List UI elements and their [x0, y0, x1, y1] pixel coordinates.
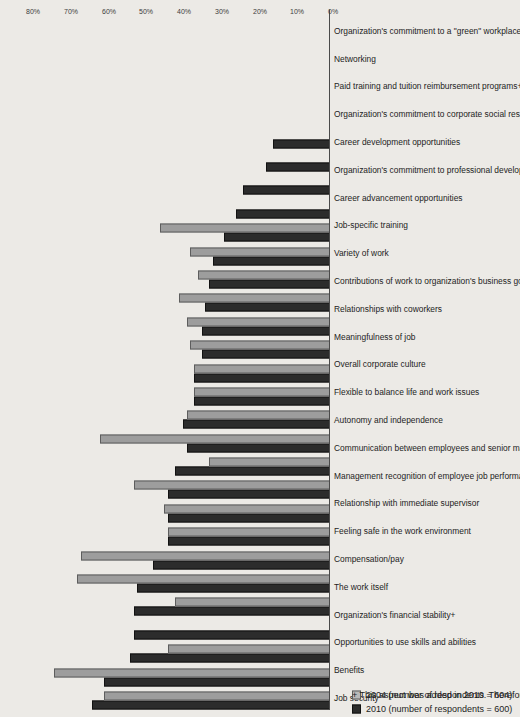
- bar-group: [28, 668, 330, 686]
- category-label: Career development opportunities: [334, 136, 460, 146]
- category-label: Compensation/pay: [334, 553, 404, 563]
- bar: [81, 551, 330, 560]
- bar: [160, 223, 330, 232]
- bar: [100, 434, 330, 443]
- category-label: Networking: [334, 53, 376, 63]
- bar: [224, 232, 330, 241]
- legend-item: 2010 (number of respondents = 600): [352, 703, 512, 713]
- bar-group: [28, 340, 330, 358]
- bar-group: [28, 364, 330, 382]
- bar: [187, 410, 330, 419]
- plot-area: [28, 9, 330, 709]
- chart-footnote: + This aspect was added in 2010. Therefo…: [352, 689, 520, 699]
- bar-group: [28, 247, 330, 265]
- bar-group: [28, 387, 330, 405]
- category-label: Relationships with coworkers: [334, 303, 442, 313]
- category-label: Opportunities to use skills and abilitie…: [334, 636, 476, 646]
- bar: [175, 597, 330, 606]
- bar-group: [28, 504, 330, 522]
- bar-container: [28, 9, 330, 709]
- category-label: Feeling safe in the work environment: [334, 525, 471, 535]
- category-label: Contributions of work to organization's …: [334, 275, 520, 285]
- bar: [205, 302, 330, 311]
- category-label: Relationship with immediate supervisor: [334, 497, 479, 507]
- bar: [194, 364, 330, 373]
- category-label: Variety of work: [334, 247, 389, 257]
- bar-group: [28, 130, 330, 148]
- bar-group: [28, 153, 330, 171]
- category-label: Paid training and tuition reimbursement …: [334, 80, 520, 90]
- chart-figure: 0%10%20%30%40%50%60%70%80% Job securityB…: [0, 0, 520, 717]
- bar: [168, 536, 330, 545]
- bar-group: [28, 457, 330, 475]
- bar: [137, 583, 330, 592]
- bar: [104, 691, 331, 700]
- category-label: Communication between employees and seni…: [334, 442, 520, 452]
- bar: [134, 606, 330, 615]
- bar-group: [28, 597, 330, 615]
- bar-group: [28, 527, 330, 545]
- category-label: Meaningfulness of job: [334, 331, 415, 341]
- bar: [194, 373, 330, 382]
- bar: [164, 504, 330, 513]
- bar: [190, 340, 330, 349]
- category-label: Management recognition of employee job p…: [334, 470, 520, 480]
- bar: [92, 700, 330, 709]
- category-label: Career advancement opportunities: [334, 192, 463, 202]
- bar: [153, 560, 330, 569]
- bar: [202, 349, 330, 358]
- bar-group: [28, 621, 330, 639]
- legend-swatch-dark: [352, 704, 361, 713]
- bar: [168, 644, 330, 653]
- bar-group: [28, 551, 330, 569]
- category-label: The work itself: [334, 581, 388, 591]
- bar: [236, 209, 330, 218]
- bar-group: [28, 270, 330, 288]
- bar: [54, 668, 330, 677]
- bar: [243, 185, 330, 194]
- bar-group: [28, 223, 330, 241]
- bar: [209, 279, 330, 288]
- bar: [194, 387, 330, 396]
- category-label: Organization's commitment to corporate s…: [334, 108, 520, 118]
- category-label: Organization's commitment to professiona…: [334, 164, 520, 174]
- category-label: Flexible to balance life and work issues: [334, 386, 479, 396]
- bar-group: [28, 293, 330, 311]
- bar: [77, 574, 330, 583]
- value-axis-line: [329, 9, 330, 709]
- bar: [130, 653, 330, 662]
- bar: [175, 466, 330, 475]
- bar-group: [28, 691, 330, 709]
- bar: [179, 293, 330, 302]
- category-label: Job-specific training: [334, 219, 408, 229]
- bar: [190, 247, 330, 256]
- bar: [198, 270, 330, 279]
- bar-group: [28, 176, 330, 194]
- bar: [202, 326, 330, 335]
- category-label: Organization's commitment to a "green" w…: [334, 25, 520, 35]
- bar: [194, 396, 330, 405]
- bar: [168, 513, 330, 522]
- bar: [187, 317, 330, 326]
- bar: [209, 457, 330, 466]
- bar: [183, 419, 330, 428]
- rotated-figure-wrapper: 0%10%20%30%40%50%60%70%80% Job securityB…: [0, 0, 520, 717]
- bar: [273, 139, 330, 148]
- category-label: Benefits: [334, 664, 364, 674]
- bar-group: [28, 574, 330, 592]
- bar: [213, 256, 330, 265]
- bar: [187, 443, 330, 452]
- category-label: Overall corporate culture: [334, 358, 426, 368]
- bar-group: [28, 410, 330, 428]
- bar-group: [28, 317, 330, 335]
- bar: [104, 677, 331, 686]
- category-axis-labels: Job securityBenefitsOpportunities to use…: [334, 9, 342, 709]
- bar: [168, 489, 330, 498]
- bar-group: [28, 644, 330, 662]
- bar-group: [28, 200, 330, 218]
- category-label: Organization's financial stability+: [334, 609, 455, 619]
- bar-group: [28, 434, 330, 452]
- bar: [266, 162, 330, 171]
- bar: [168, 527, 330, 536]
- bar: [134, 630, 330, 639]
